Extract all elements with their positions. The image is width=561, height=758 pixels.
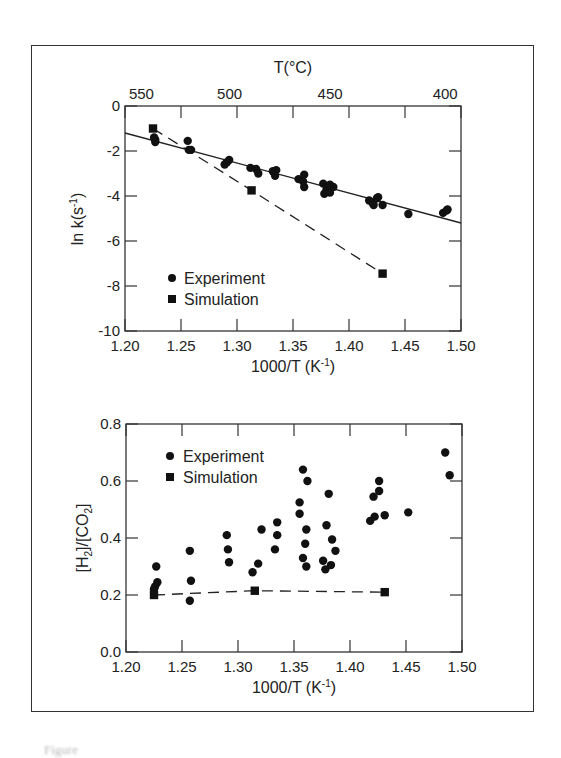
bottom-y-ticks: 0.00.20.40.60.8 bbox=[100, 415, 462, 660]
experiment-point bbox=[301, 540, 309, 548]
simulation-point bbox=[149, 124, 157, 132]
top-y-axis-title: ln k(s-1) bbox=[68, 193, 86, 245]
experiment-point bbox=[254, 559, 262, 567]
experiment-point bbox=[300, 183, 308, 191]
secondary-tick-label: 450 bbox=[318, 85, 343, 102]
x-tick-label: 1.20 bbox=[110, 337, 139, 354]
legend-experiment-label: Experiment bbox=[184, 270, 265, 287]
experiment-point bbox=[184, 137, 192, 145]
simulation-point bbox=[378, 269, 386, 277]
experiment-point bbox=[152, 562, 160, 570]
experiment-point bbox=[375, 487, 383, 495]
experiment-point bbox=[445, 471, 453, 479]
bottom-x-axis-title: 1000/T (K-1) bbox=[252, 678, 336, 696]
x-tick-label: 1.50 bbox=[446, 337, 475, 354]
experiment-point bbox=[302, 525, 310, 533]
simulation-point bbox=[150, 591, 158, 599]
bottom-y-axis-title: [H2]/[CO2] bbox=[74, 504, 94, 573]
experiment-point bbox=[300, 170, 308, 178]
experiment-point bbox=[225, 558, 233, 566]
top-series bbox=[125, 124, 461, 278]
y-tick-label: -10 bbox=[98, 322, 120, 339]
experiment-point bbox=[404, 210, 412, 218]
experiment-point bbox=[273, 531, 281, 539]
x-tick-label: 1.50 bbox=[447, 658, 476, 675]
bottom-x-ticks: 1.201.251.301.351.401.451.50 bbox=[111, 424, 476, 675]
experiment-point bbox=[319, 557, 327, 565]
experiment-point bbox=[370, 512, 378, 520]
simulation-point bbox=[247, 186, 255, 194]
secondary-tick-label: 550 bbox=[129, 85, 154, 102]
experiment-point bbox=[186, 547, 194, 555]
experiment-point bbox=[187, 577, 195, 585]
top-secondary-axis-title: T(°C) bbox=[274, 59, 312, 76]
top-x-axis-title: 1000/T (K-1) bbox=[251, 357, 335, 375]
experiment-point bbox=[328, 535, 336, 543]
experiment-point bbox=[186, 597, 194, 605]
x-tick-label: 1.25 bbox=[167, 658, 196, 675]
experiment-point bbox=[404, 508, 412, 516]
y-tick-label: 0 bbox=[112, 97, 120, 114]
experiment-point bbox=[248, 568, 256, 576]
x-tick-label: 1.40 bbox=[335, 658, 364, 675]
y-tick-label: -6 bbox=[107, 232, 120, 249]
simulation-point bbox=[251, 587, 259, 595]
experiment-point bbox=[273, 518, 281, 526]
experiment-point bbox=[325, 490, 333, 498]
top-y-ticks: 0-2-4-6-8-10 bbox=[98, 97, 461, 339]
experiment-point bbox=[225, 156, 233, 164]
y-tick-label: 0.2 bbox=[100, 586, 121, 603]
experiment-point bbox=[151, 138, 159, 146]
experiment-point bbox=[327, 561, 335, 569]
y-tick-label: -2 bbox=[107, 142, 120, 159]
bottom-chart-h2-co2-ratio: 1.201.251.301.351.401.451.50 0.00.20.40.… bbox=[74, 415, 477, 696]
experiment-point bbox=[272, 166, 280, 174]
experiment-point bbox=[151, 582, 159, 590]
y-tick-label: 0.0 bbox=[100, 643, 121, 660]
legend-experiment-marker bbox=[168, 274, 176, 282]
top-secondary-ticks: 550500450400 bbox=[129, 85, 458, 102]
y-tick-label: -4 bbox=[107, 187, 120, 204]
x-tick-label: 1.20 bbox=[111, 658, 140, 675]
experiment-point bbox=[378, 201, 386, 209]
experiment-point bbox=[254, 169, 262, 177]
y-tick-label: 0.6 bbox=[100, 472, 121, 489]
secondary-tick-label: 500 bbox=[217, 85, 242, 102]
fit-line bbox=[125, 133, 461, 223]
experiment-point bbox=[271, 545, 279, 553]
x-tick-label: 1.45 bbox=[391, 658, 420, 675]
legend-simulation-label: Simulation bbox=[184, 291, 259, 308]
experiment-point bbox=[224, 545, 232, 553]
y-tick-label: 0.8 bbox=[100, 415, 121, 432]
experiment-point bbox=[302, 562, 310, 570]
experiment-point bbox=[295, 510, 303, 518]
experiment-point bbox=[299, 554, 307, 562]
legend-simulation-marker bbox=[168, 295, 176, 303]
experiment-point bbox=[257, 525, 265, 533]
x-tick-label: 1.30 bbox=[222, 337, 251, 354]
figure-caption: Figure bbox=[44, 742, 78, 758]
experiment-point bbox=[331, 547, 339, 555]
x-tick-label: 1.30 bbox=[223, 658, 252, 675]
bottom-legend: Experiment Simulation bbox=[166, 448, 264, 486]
simulation-point bbox=[381, 588, 389, 596]
x-tick-label: 1.40 bbox=[334, 337, 363, 354]
legend-experiment-label: Experiment bbox=[183, 448, 264, 465]
y-tick-label: 0.4 bbox=[100, 529, 121, 546]
experiment-point bbox=[187, 146, 195, 154]
experiment-point bbox=[443, 205, 451, 213]
experiment-point bbox=[381, 511, 389, 519]
experiment-point bbox=[374, 193, 382, 201]
experiment-point bbox=[375, 477, 383, 485]
experiment-point bbox=[322, 521, 330, 529]
experiment-point bbox=[223, 531, 231, 539]
bottom-plot-frame bbox=[126, 424, 462, 652]
simulation-line bbox=[154, 591, 385, 595]
x-tick-label: 1.35 bbox=[279, 658, 308, 675]
experiment-point bbox=[295, 498, 303, 506]
legend-experiment-marker bbox=[166, 452, 174, 460]
experiment-point bbox=[329, 183, 337, 191]
experiment-point bbox=[441, 448, 449, 456]
legend-simulation-label: Simulation bbox=[183, 469, 258, 486]
